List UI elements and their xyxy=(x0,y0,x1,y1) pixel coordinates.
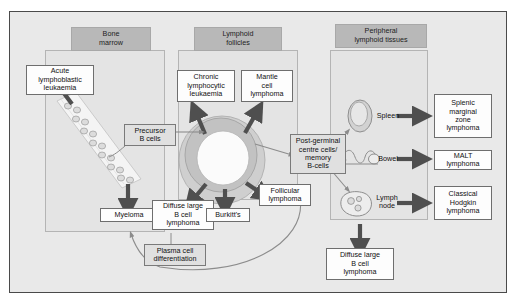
germinal-centre-icon xyxy=(179,116,265,204)
box-splenic-marginal-zone-lymphoma[interactable]: Splenic marginal zone lymphoma xyxy=(434,94,492,138)
organ-label-lymph-node: Lymph node xyxy=(372,194,402,211)
box-burkitts[interactable]: Burkitt's xyxy=(206,208,250,222)
organ-label-spleen: Spleen xyxy=(373,112,403,120)
organ-label-bowel: Bowel xyxy=(373,155,403,163)
box-diffuse-large-b-cell-lymphoma-node[interactable]: Diffuse large B cell lymphoma xyxy=(326,248,394,280)
box-diffuse-large-b-cell-lymphoma-follicle[interactable]: Diffuse large B cell lymphoma xyxy=(152,200,214,230)
box-mantle-cell-lymphoma[interactable]: Mantle cell lymphoma xyxy=(241,70,293,102)
label-post-germinal-centre-cells: Post-germinal centre cells/ memory B-cel… xyxy=(290,134,346,174)
spleen-icon xyxy=(348,100,372,132)
box-malt-lymphoma[interactable]: MALT lymphoma xyxy=(434,150,492,170)
box-myeloma[interactable]: Myeloma xyxy=(100,208,158,222)
box-acute-lymphoblastic-leukaemia[interactable]: Acute lymphoblastic leukaemia xyxy=(26,65,94,95)
box-chronic-lymphocytic-leukaemia[interactable]: Chronic lymphocytic leukaemia xyxy=(177,70,235,102)
figure-diagram: Bone marrow Lymphoid follicles Periphera… xyxy=(9,11,507,293)
label-plasma-cell-differentiation: Plasma cell differentiation xyxy=(144,244,206,266)
label-precursor-b-cells: Precursor B cells xyxy=(124,124,176,146)
lymph-node-icon xyxy=(341,192,372,216)
box-classical-hodgkin-lymphoma[interactable]: Classical Hodgkin lymphoma xyxy=(434,186,492,220)
box-follicular-lymphoma[interactable]: Follicular lymphoma xyxy=(259,184,311,206)
